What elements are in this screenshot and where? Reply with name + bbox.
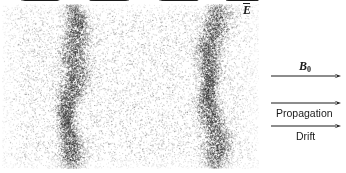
e-field-overbar: E <box>243 3 251 16</box>
b0-field-label: B0 <box>299 60 311 74</box>
e-field-label: E <box>243 3 251 16</box>
b0-symbol: B <box>299 59 307 73</box>
propagation-label: Propagation <box>276 108 333 119</box>
drift-label: Drift <box>296 131 315 142</box>
e-field-symbol: E <box>243 3 251 17</box>
plasma-particle-field <box>0 0 346 173</box>
plasma-wave-figure: E B0 Propagation Drift <box>0 0 346 173</box>
b0-subscript: 0 <box>307 65 311 74</box>
